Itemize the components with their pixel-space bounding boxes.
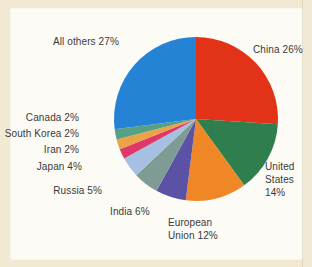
pie-slice-all-others [114, 37, 196, 129]
label-united-states: United States 14% [265, 160, 295, 199]
label-russia: Russia 5% [53, 185, 102, 197]
label-canada: Canada 2% [26, 112, 79, 124]
label-japan: Japan 4% [37, 161, 82, 173]
label-china: China 26% [253, 44, 303, 56]
label-all-others: All others 27% [53, 36, 119, 48]
label-south-korea: South Korea 2% [5, 128, 79, 140]
label-iran: Iran 2% [44, 144, 79, 156]
label-european-union: European Union 12% [168, 216, 218, 242]
label-india: India 6% [110, 206, 150, 218]
